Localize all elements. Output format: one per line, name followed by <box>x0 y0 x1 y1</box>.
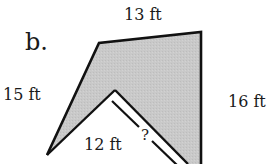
part-label: b. <box>25 28 48 56</box>
edge-label-right: 16 ft <box>228 92 266 111</box>
figure-canvas: b. 13 ft 15 ft 16 ft 12 ft ? <box>0 0 279 164</box>
edge-label-inner: 12 ft <box>84 135 122 154</box>
edge-label-top: 13 ft <box>124 5 162 24</box>
edge-label-left: 15 ft <box>3 85 41 104</box>
unknown-length-label: ? <box>141 126 149 144</box>
